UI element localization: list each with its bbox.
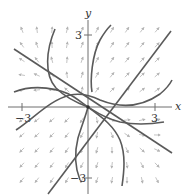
direction-arrow (50, 118, 55, 122)
direction-arrow (35, 118, 40, 122)
direction-arrow (65, 118, 69, 122)
direction-arrow (35, 163, 39, 168)
direction-arrow (20, 148, 24, 152)
direction-arrow (110, 73, 114, 78)
direction-arrow (155, 88, 160, 91)
direction-arrow (67, 57, 68, 63)
direction-field (19, 27, 160, 183)
direction-arrow (50, 163, 54, 168)
direction-arrow (140, 73, 144, 77)
direction-arrow (127, 162, 128, 168)
direction-arrow (65, 88, 69, 92)
direction-arrow (81, 57, 83, 63)
direction-arrow (35, 148, 39, 152)
direction-arrow (20, 178, 24, 183)
direction-arrow (35, 58, 39, 63)
direction-arrow (81, 72, 83, 78)
trajectories (14, 25, 172, 186)
direction-arrow (111, 177, 112, 183)
direction-arrow (65, 177, 68, 182)
direction-arrow (97, 117, 98, 123)
direction-arrow (141, 177, 142, 183)
direction-arrow (96, 132, 97, 138)
direction-arrow (140, 28, 144, 33)
direction-arrow (96, 57, 99, 62)
direction-arrow (36, 42, 38, 48)
direction-arrow (126, 147, 128, 152)
direction-arrow (51, 57, 52, 63)
equilibrium-point (86, 105, 90, 109)
direction-arrow (110, 58, 113, 63)
direction-arrow (34, 90, 40, 91)
direction-arrow (140, 88, 145, 92)
direction-arrow (35, 178, 39, 183)
direction-arrow (65, 148, 68, 153)
direction-arrow (96, 27, 99, 32)
direction-arrow (112, 162, 113, 168)
direction-arrow (81, 87, 82, 93)
direction-arrow (155, 28, 159, 33)
direction-arrow (66, 27, 67, 33)
direction-arrow (125, 58, 129, 63)
direction-arrow (37, 27, 38, 33)
trajectory-lower-right-steep (88, 107, 124, 186)
direction-arrow (125, 28, 128, 33)
direction-arrow (20, 43, 23, 48)
direction-arrow (19, 75, 25, 76)
direction-arrow (141, 162, 144, 167)
direction-arrow (139, 119, 145, 120)
direction-arrow (125, 73, 129, 77)
direction-arrow (140, 58, 144, 62)
direction-arrow (140, 43, 144, 48)
direction-arrow (50, 148, 54, 153)
direction-arrow (95, 72, 98, 77)
x-axis-label: x (175, 100, 182, 113)
direction-arrow (66, 42, 67, 48)
direction-arrow (111, 132, 113, 138)
direction-arrow (125, 43, 129, 48)
direction-arrow (19, 58, 24, 61)
axes: x y −3 3 3 −3 (8, 7, 182, 194)
direction-arrow (96, 177, 98, 183)
direction-arrow (110, 42, 113, 47)
direction-arrow (125, 133, 130, 136)
phase-portrait: x y −3 3 3 −3 (0, 0, 186, 196)
x-tick-label-neg3: −3 (15, 112, 31, 125)
direction-arrow (96, 147, 98, 153)
direction-arrow (124, 120, 130, 121)
direction-arrow (155, 163, 159, 167)
direction-arrow (81, 132, 84, 137)
direction-arrow (34, 74, 39, 76)
direction-arrow (20, 133, 25, 137)
direction-arrow (67, 72, 68, 78)
trajectory-upper-right-through (91, 25, 111, 92)
direction-arrow (156, 177, 159, 182)
direction-arrow (155, 58, 159, 62)
direction-arrow (65, 133, 69, 138)
direction-arrow (110, 27, 113, 32)
direction-arrow (81, 162, 84, 167)
direction-arrow (110, 88, 114, 92)
direction-arrow (96, 162, 98, 168)
y-axis-label: y (84, 7, 92, 20)
direction-arrow (50, 133, 54, 137)
direction-arrow (21, 27, 23, 33)
direction-arrow (35, 133, 39, 137)
direction-arrow (20, 163, 24, 167)
direction-arrow (50, 178, 53, 183)
direction-arrow (155, 73, 160, 77)
y-tick-label-3: 3 (75, 29, 82, 42)
direction-arrow (81, 42, 83, 48)
direction-arrow (154, 149, 159, 151)
direction-arrow (140, 148, 144, 152)
direction-arrow (95, 88, 98, 93)
